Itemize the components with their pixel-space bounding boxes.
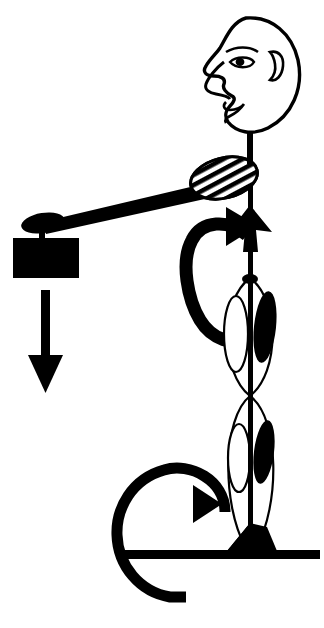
thigh-front-muscle bbox=[224, 296, 248, 372]
ground-line bbox=[124, 550, 320, 559]
shank-front-muscle bbox=[228, 424, 250, 492]
stick-figure-diagram bbox=[0, 0, 324, 628]
axis-overlay bbox=[248, 130, 253, 550]
eye-icon bbox=[230, 58, 254, 68]
diagram-canvas bbox=[0, 0, 324, 628]
